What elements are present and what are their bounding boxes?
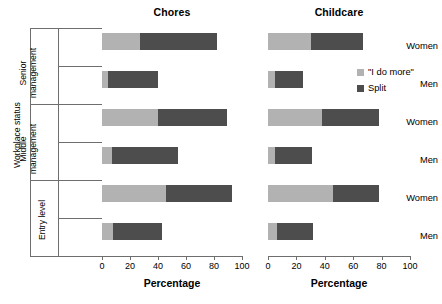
- x-axis-tick: [382, 256, 383, 260]
- x-axis-tick: [214, 256, 215, 260]
- bar-segment: [277, 223, 314, 240]
- bar-segment: [102, 147, 112, 164]
- bar-segment: [166, 185, 232, 202]
- bar-segment: [102, 33, 140, 50]
- x-axis-tick-label: 0: [89, 261, 115, 271]
- square-swatch-dark-icon: [357, 85, 364, 92]
- bar-segment: [268, 185, 333, 202]
- x-axis-tick: [102, 256, 103, 260]
- x-axis-tick-label: 20: [117, 261, 143, 271]
- x-axis-tick: [242, 256, 243, 260]
- bar-segment: [102, 185, 166, 202]
- bar-segment: [268, 71, 275, 88]
- bar-row: [268, 71, 304, 88]
- x-axis-tick: [158, 256, 159, 260]
- bar-segment: [113, 223, 162, 240]
- x-axis-tick-label: 40: [145, 261, 171, 271]
- y-axis-sex-rule: [58, 218, 102, 219]
- bar-segment: [322, 109, 379, 126]
- x-axis-tick-label: 0: [255, 261, 281, 271]
- x-axis-tick-label: 60: [173, 261, 199, 271]
- x-axis-tick: [130, 256, 131, 260]
- legend-item-label: "I do more": [368, 67, 414, 77]
- bar-segment: [275, 71, 303, 88]
- x-axis-tick-label: 60: [340, 261, 366, 271]
- bar-row: [268, 109, 379, 126]
- status-line-1: Middle: [18, 136, 28, 161]
- bar-row: [102, 185, 232, 202]
- bar-segment: [102, 109, 158, 126]
- x-axis-line-childcare: [268, 256, 410, 257]
- bar-segment: [268, 223, 277, 240]
- panel-title-childcare: Childcare: [268, 6, 410, 18]
- bar-segment: [311, 33, 364, 50]
- x-axis-line-chores: [102, 256, 242, 257]
- x-axis-label-childcare: Percentage: [268, 277, 410, 289]
- x-axis-tick: [410, 256, 411, 260]
- bar-segment: [268, 147, 275, 164]
- y-axis-sex-rule: [58, 66, 102, 67]
- bar-row: [268, 185, 379, 202]
- legend-item-label: Split: [368, 83, 386, 93]
- bar-row: [102, 33, 217, 50]
- y-axis-status-middle: Middle management: [18, 104, 38, 194]
- x-axis-tick-label: 80: [201, 261, 227, 271]
- panel-title-chores: Chores: [102, 6, 242, 18]
- bar-segment: [275, 147, 312, 164]
- x-axis-tick-label: 100: [397, 261, 423, 271]
- bar-segment: [268, 109, 322, 126]
- legend: "I do more" Split: [357, 65, 441, 97]
- x-axis-tick: [186, 256, 187, 260]
- y-axis-sex-rule: [58, 142, 102, 143]
- bar-row: [268, 33, 363, 50]
- bar-segment: [140, 33, 217, 50]
- square-swatch-light-icon: [357, 69, 364, 76]
- x-axis-label-chores: Percentage: [102, 277, 242, 289]
- bar-row: [102, 71, 158, 88]
- bar-row: [102, 109, 227, 126]
- x-axis-tick-label: 40: [312, 261, 338, 271]
- x-axis-tick: [325, 256, 326, 260]
- status-line-2: management: [28, 48, 38, 98]
- x-axis-tick: [353, 256, 354, 260]
- y-axis-group-rule: [30, 28, 102, 29]
- status-line-1: Entry level: [37, 200, 47, 240]
- bar-segment: [112, 147, 178, 164]
- chart-figure: Chores Childcare Workplace status Senior…: [0, 0, 442, 304]
- bar-segment: [102, 223, 113, 240]
- x-axis-tick: [268, 256, 269, 260]
- bar-row: [102, 147, 178, 164]
- bar-segment: [108, 71, 158, 88]
- x-axis-tick-label: 80: [369, 261, 395, 271]
- bar-row: [268, 147, 312, 164]
- x-axis-tick-label: 100: [229, 261, 255, 271]
- x-axis-tick-label: 20: [283, 261, 309, 271]
- y-axis-group-rule: [30, 104, 102, 105]
- plot-area-chores: [102, 28, 242, 256]
- y-axis-status-entry: Entry level: [37, 175, 47, 265]
- bar-segment: [268, 33, 311, 50]
- x-axis-tick: [296, 256, 297, 260]
- status-line-2: management: [28, 124, 38, 174]
- legend-item: Split: [357, 81, 441, 95]
- legend-item: "I do more": [357, 65, 441, 79]
- bar-segment: [158, 109, 227, 126]
- bar-row: [268, 223, 313, 240]
- bar-segment: [333, 185, 378, 202]
- plot-area-childcare: [268, 28, 410, 256]
- bar-row: [102, 223, 162, 240]
- status-line-1: Senior: [18, 61, 28, 86]
